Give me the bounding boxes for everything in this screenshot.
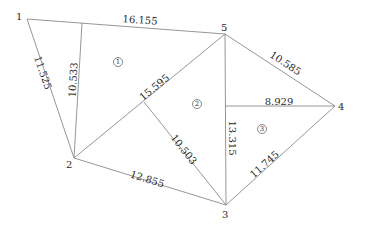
edge-length-label: 10.503 <box>169 132 199 166</box>
edge-length-label: 10.533 <box>66 62 79 98</box>
node-label: 4 <box>338 101 344 112</box>
edge-length-label: 8.929 <box>265 96 294 107</box>
edge-length-label: 12.855 <box>129 169 166 190</box>
edge-length-label: 13.315 <box>227 121 238 156</box>
region-number: 3 <box>260 125 264 133</box>
edge-length-label: 11.745 <box>248 148 281 180</box>
node-labels: 12345 <box>16 11 344 220</box>
edge-length-label: 10.585 <box>268 49 303 77</box>
survey-diagram: 16.15511.52510.53315.59510.50312.85513.3… <box>0 0 367 227</box>
node-label: 1 <box>16 11 22 22</box>
region-marker: 3 <box>258 125 267 134</box>
region-number: 1 <box>116 58 120 66</box>
edge-line <box>225 34 226 205</box>
node-label: 5 <box>221 22 227 33</box>
edge-length-label: 16.155 <box>122 13 158 27</box>
edge-length-labels: 16.15511.52510.53315.59510.50312.85513.3… <box>32 13 303 189</box>
edge-line <box>226 106 335 205</box>
region-markers: 123 <box>114 58 267 134</box>
edge-length-label: 11.525 <box>32 54 54 91</box>
region-marker: 2 <box>193 100 202 109</box>
region-marker: 1 <box>114 58 123 67</box>
edge-lines <box>27 19 335 205</box>
node-label: 2 <box>66 159 72 170</box>
region-number: 2 <box>195 100 199 108</box>
edge-length-label: 15.595 <box>137 72 171 103</box>
node-label: 3 <box>222 209 228 220</box>
